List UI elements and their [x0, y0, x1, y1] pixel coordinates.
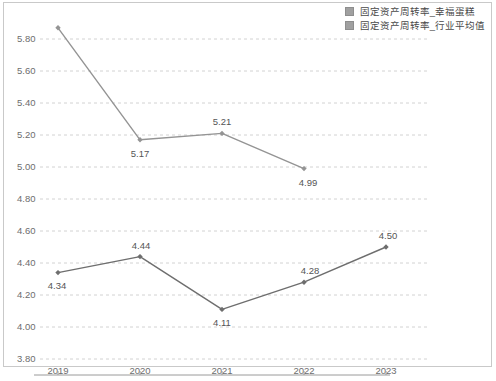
- legend-swatch-icon: [345, 21, 354, 30]
- series-lines: [58, 28, 386, 310]
- legend-item-label: 固定资产周转率_幸福蛋糕: [360, 7, 475, 17]
- data-point-label: 5.17: [131, 149, 150, 159]
- series-markers: [55, 25, 388, 312]
- data-point-marker[interactable]: [301, 280, 306, 285]
- legend-item-1[interactable]: 固定资产周转率_行业平均值: [345, 21, 485, 31]
- chart-legend: 固定资产周转率_幸福蛋糕 固定资产周转率_行业平均值: [345, 7, 485, 30]
- data-point-label: 4.99: [299, 178, 318, 188]
- x-axis-ticks: [58, 371, 386, 375]
- data-point-label: 4.44: [132, 241, 151, 251]
- legend-item-0[interactable]: 固定资产周转率_幸福蛋糕: [345, 7, 485, 17]
- data-point-label: 4.34: [48, 281, 67, 291]
- legend-item-label: 固定资产周转率_行业平均值: [360, 21, 485, 31]
- data-point-label: 4.11: [213, 319, 231, 329]
- gridlines: [40, 39, 430, 359]
- series-line: [58, 28, 304, 169]
- chart-frame: 固定资产周转率_幸福蛋糕 固定资产周转率_行业平均值 3.804.004.204…: [3, 2, 492, 367]
- data-point-label: 4.28: [301, 266, 320, 276]
- plot-area: [40, 23, 492, 359]
- data-point-marker[interactable]: [55, 270, 60, 275]
- data-point-marker[interactable]: [383, 244, 388, 249]
- legend-swatch-icon: [345, 7, 354, 16]
- data-point-label: 4.50: [379, 231, 398, 241]
- data-point-label: 5.21: [213, 118, 232, 128]
- series-line: [58, 247, 386, 309]
- plot-svg: [40, 23, 492, 359]
